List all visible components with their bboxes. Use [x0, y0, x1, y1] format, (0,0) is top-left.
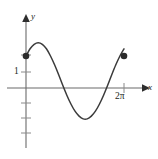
right-endpoint-marker	[121, 53, 128, 60]
left-endpoint-marker	[23, 53, 30, 60]
graph-figure: y x 1 2π	[0, 0, 158, 159]
sinusoid-curve	[26, 43, 124, 119]
x-axis-label: x	[148, 83, 152, 92]
plot-canvas	[0, 0, 158, 159]
y-tick-label-one: 1	[14, 67, 19, 77]
y-axis-arrow-icon	[22, 14, 30, 22]
y-axis-label: y	[31, 12, 35, 21]
x-tick-label-two-pi: 2π	[115, 92, 125, 102]
